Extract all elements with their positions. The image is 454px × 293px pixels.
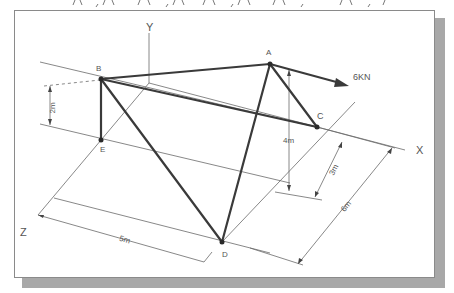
joint-b xyxy=(99,77,104,82)
truss-diagram: Y X Z A B C D E 6KN 2m 4m 3m 6m 5m xyxy=(0,0,454,293)
force-arrow xyxy=(270,64,349,87)
dim-5m-tick xyxy=(204,252,212,262)
x-axis-label: X xyxy=(416,144,424,156)
dim-3m-label: 3m xyxy=(327,163,340,177)
member-bd xyxy=(101,79,222,242)
point-b-label: B xyxy=(96,64,101,73)
ext-line-6m-bottom xyxy=(250,248,303,265)
joint-c xyxy=(315,125,320,130)
member-bc xyxy=(101,79,317,127)
member-ab xyxy=(101,64,270,79)
dim-6m-label: 6m xyxy=(339,199,353,214)
point-c-label: C xyxy=(317,111,324,121)
ext-line-a-base xyxy=(275,192,322,200)
point-e-label: E xyxy=(100,145,105,154)
dim-4m-label: 4m xyxy=(283,136,294,145)
joints xyxy=(99,62,320,245)
z-axis-label: Z xyxy=(20,226,27,238)
dim-2m-ext xyxy=(44,80,100,86)
point-d-label: D xyxy=(222,250,228,259)
force-label: 6KN xyxy=(353,72,371,82)
point-a-label: A xyxy=(266,48,272,57)
dim-2m-label: 2m xyxy=(48,102,57,113)
dim-5m-label: 5m xyxy=(118,234,131,246)
joint-e xyxy=(99,138,104,143)
ext-line-right xyxy=(317,127,395,148)
joint-a xyxy=(268,62,273,67)
joint-d xyxy=(220,240,225,245)
member-ad xyxy=(222,64,270,242)
y-axis-label: Y xyxy=(146,21,154,33)
